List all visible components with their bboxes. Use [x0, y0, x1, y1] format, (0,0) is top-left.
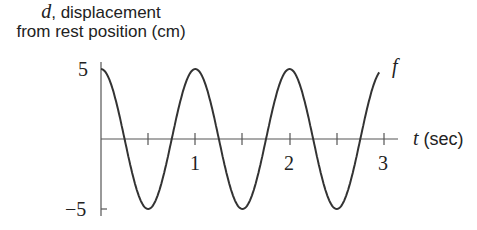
x-ticks	[101, 133, 384, 209]
x-tick-1: 1	[190, 152, 200, 175]
plot-area	[0, 0, 477, 230]
y-tick-5: 5	[78, 58, 88, 81]
x-tick-2: 2	[284, 152, 294, 175]
x-variable: t	[413, 127, 419, 149]
x-axis-label: t (sec)	[413, 127, 464, 150]
x-unit: (sec)	[424, 129, 464, 149]
curve-label: f	[392, 55, 398, 78]
y-tick-neg5: −5	[65, 198, 86, 221]
x-tick-3: 3	[378, 152, 388, 175]
